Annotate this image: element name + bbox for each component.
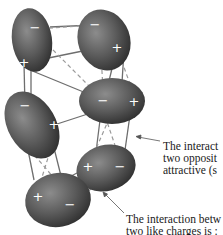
negative-charge-icon: −: [115, 159, 126, 174]
label-line: attractive (s: [163, 164, 218, 176]
positive-charge-icon: +: [112, 40, 123, 55]
positive-charge-icon: +: [33, 189, 44, 204]
molecule-1: − +: [8, 6, 57, 75]
positive-charge-icon: +: [19, 55, 30, 70]
molecule-4: − +: [79, 78, 145, 124]
molecule-2: − +: [69, 2, 139, 78]
positive-charge-icon: +: [83, 159, 94, 174]
diagram-canvas: − + − + − + − + + − + −: [0, 0, 223, 235]
repulsive-interaction-label: The interaction betw two like charges is…: [126, 213, 221, 235]
label-line: The interact: [163, 140, 218, 152]
arrowhead-icon: [136, 135, 141, 139]
positive-charge-icon: +: [129, 94, 140, 109]
negative-charge-icon: −: [98, 93, 109, 108]
negative-charge-icon: −: [30, 20, 41, 35]
negative-charge-icon: −: [20, 98, 31, 113]
dipole-diagram: − + − + − + − + + − + −: [0, 0, 223, 235]
label-line: two opposit: [163, 152, 218, 164]
attractive-interaction-label: The interact two opposit attractive (s: [163, 140, 218, 176]
positive-charge-icon: +: [49, 117, 60, 132]
negative-charge-icon: −: [65, 197, 76, 212]
negative-charge-icon: −: [90, 17, 101, 32]
label-line: two like charges is :: [126, 225, 221, 235]
molecule-3: − +: [0, 82, 71, 168]
label-line: The interaction betw: [126, 213, 221, 225]
